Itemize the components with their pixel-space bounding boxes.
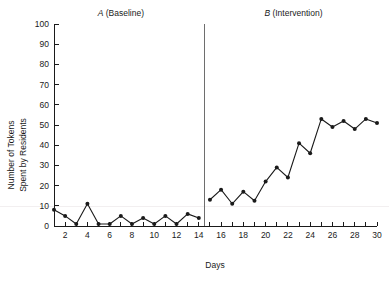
x-tick-label: 8 (130, 230, 135, 240)
x-tick-label: 20 (261, 230, 271, 240)
data-point (241, 190, 245, 194)
x-tick-label: 30 (372, 230, 382, 240)
x-tick-label: 26 (328, 230, 338, 240)
data-point (130, 222, 134, 226)
data-point (286, 176, 290, 180)
phase-b-label-text: (Intervention) (270, 8, 323, 18)
y-tick-label: 60 (40, 100, 50, 110)
data-point (108, 222, 112, 226)
x-tick-label: 16 (216, 230, 226, 240)
data-point (297, 141, 301, 145)
x-tick-label: 4 (85, 230, 90, 240)
y-tick-label: 50 (40, 120, 50, 130)
y-axis-title-line2: Spent by Residents (18, 118, 28, 192)
x-tick-label: 22 (283, 230, 293, 240)
y-tick-label: 30 (40, 160, 50, 170)
single-case-line-chart: 0102030405060708090100 24681012141618202… (0, 0, 389, 281)
x-tick-label: 12 (172, 230, 182, 240)
data-point (252, 199, 256, 203)
data-point (275, 165, 279, 169)
x-tick-label: 2 (63, 230, 68, 240)
data-point (353, 127, 357, 131)
y-tick-label: 10 (40, 201, 50, 211)
data-point (63, 214, 67, 218)
x-tick-label: 14 (194, 230, 204, 240)
phase-a-label-text: (Baseline) (103, 8, 144, 18)
data-point (342, 119, 346, 123)
data-point (141, 216, 145, 220)
y-tick-label: 90 (40, 39, 50, 49)
phase-a-label: A (Baseline) (97, 8, 144, 18)
x-tick-label: 6 (107, 230, 112, 240)
data-point (119, 214, 123, 218)
data-point (163, 214, 167, 218)
data-point (308, 151, 312, 155)
x-tick-label: 24 (305, 230, 315, 240)
data-point (74, 222, 78, 226)
data-point (330, 125, 334, 129)
data-point (152, 222, 156, 226)
y-tick-label: 20 (40, 181, 50, 191)
y-tick-label: 80 (40, 59, 50, 69)
data-point (230, 202, 234, 206)
y-tick-label: 40 (40, 140, 50, 150)
data-point (186, 212, 190, 216)
data-point (364, 117, 368, 121)
data-point (85, 202, 89, 206)
data-point (97, 222, 101, 226)
x-tick-label: 18 (239, 230, 249, 240)
data-point (197, 216, 201, 220)
data-point (319, 117, 323, 121)
x-tick-label: 28 (350, 230, 360, 240)
phase-b-label: B (Intervention) (264, 8, 322, 18)
data-point (219, 188, 223, 192)
data-point (208, 198, 212, 202)
data-point (264, 180, 268, 184)
data-point (52, 208, 56, 212)
data-point (175, 222, 179, 226)
x-tick-label: 10 (150, 230, 160, 240)
x-axis-title: Days (205, 260, 224, 270)
y-tick-label: 0 (44, 221, 49, 231)
chart-container: 0102030405060708090100 24681012141618202… (0, 0, 389, 281)
y-tick-label: 100 (35, 19, 49, 29)
data-point (375, 121, 379, 125)
y-tick-label: 70 (40, 80, 50, 90)
y-axis-title-line1: Number of Tokens (6, 121, 16, 190)
